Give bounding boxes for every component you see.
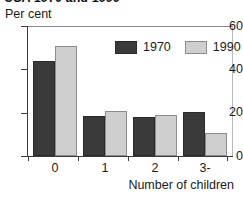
bar-group-3 xyxy=(183,26,227,156)
bars-container xyxy=(28,26,233,156)
bar-1990-cat-3 xyxy=(205,133,227,156)
y-tick-mark-60 xyxy=(21,26,27,27)
bar-1990-cat-2 xyxy=(155,115,177,156)
y-tick-mark-20 xyxy=(21,113,27,114)
x-tick-label-3: 3- xyxy=(190,162,220,175)
x-tick-label-2: 2 xyxy=(140,162,170,175)
x-tick-label-0: 0 xyxy=(40,162,70,175)
bar-group-2 xyxy=(133,26,177,156)
x-tick-mark-3 xyxy=(178,157,179,161)
y-axis-unit-label: Per cent xyxy=(5,7,52,21)
x-tick-label-1: 1 xyxy=(90,162,120,175)
x-tick-mark-1 xyxy=(78,157,79,161)
x-axis-title: Number of children xyxy=(128,178,234,192)
bar-chart-figure: USA 1970 and 1990 Per cent 60 40 20 0 19… xyxy=(0,0,243,197)
x-tick-mark-2 xyxy=(128,157,129,161)
bar-1970-cat-3 xyxy=(183,112,205,156)
x-tick-mark-start xyxy=(28,157,29,161)
bar-1990-cat-1 xyxy=(105,111,127,157)
y-tick-mark-0 xyxy=(21,156,27,157)
bar-1970-cat-1 xyxy=(83,116,105,156)
bar-group-1 xyxy=(83,26,127,156)
bar-1970-cat-2 xyxy=(133,117,155,156)
bar-group-0 xyxy=(33,26,77,156)
x-tick-mark-end xyxy=(227,157,228,161)
bar-1970-cat-0 xyxy=(33,61,55,156)
x-axis-line xyxy=(27,156,233,157)
bar-1990-cat-0 xyxy=(55,46,77,157)
y-tick-mark-40 xyxy=(21,69,27,70)
chart-title: USA 1970 and 1990 xyxy=(4,0,120,5)
